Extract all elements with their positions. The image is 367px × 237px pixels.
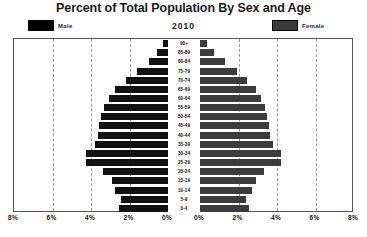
pyramid-row: 75-79 xyxy=(14,66,352,75)
bar-male xyxy=(137,68,168,75)
age-group-label: 15-19 xyxy=(168,176,200,185)
bar-male xyxy=(104,104,168,111)
legend-label-female: Female xyxy=(302,23,324,29)
age-group-label: 80-84 xyxy=(168,57,200,66)
x-axis-tick-label: 6% xyxy=(47,214,57,221)
female-bar-cell xyxy=(200,158,354,167)
bar-rows: 90+85-8980-8475-7970-7465-6960-6455-5950… xyxy=(14,39,352,211)
female-bar-cell xyxy=(200,140,354,149)
pyramid-row: 25-29 xyxy=(14,158,352,167)
bar-female xyxy=(200,196,246,203)
age-group-label: 60-64 xyxy=(168,94,200,103)
age-group-label: 20-24 xyxy=(168,167,200,176)
female-bar-cell xyxy=(200,186,354,195)
pyramid-row: 30-34 xyxy=(14,149,352,158)
male-bar-cell xyxy=(14,57,168,66)
pyramid-row: 65-69 xyxy=(14,85,352,94)
pyramid-row: 85-89 xyxy=(14,48,352,57)
male-bar-cell xyxy=(14,76,168,85)
bar-female xyxy=(200,132,270,139)
bar-male xyxy=(112,177,168,184)
male-bar-cell xyxy=(14,48,168,57)
age-group-label: 45-49 xyxy=(168,121,200,130)
bar-female xyxy=(200,58,225,65)
male-bar-cell xyxy=(14,103,168,112)
bar-female xyxy=(200,177,256,184)
pyramid-row: 40-44 xyxy=(14,131,352,140)
pyramid-row: 20-24 xyxy=(14,167,352,176)
male-bar-cell xyxy=(14,121,168,130)
x-axis-tick-label: 0% xyxy=(162,214,172,221)
female-bar-cell xyxy=(200,66,354,75)
age-group-label: 75-79 xyxy=(168,67,200,76)
female-bar-cell xyxy=(200,167,354,176)
pyramid-row: 5-9 xyxy=(14,195,352,204)
pyramid-row: 10-14 xyxy=(14,186,352,195)
legend-swatch-female xyxy=(272,20,298,31)
bar-male xyxy=(103,168,168,175)
legend-item-female: Female xyxy=(272,20,324,31)
x-axis-tick-label: 0% xyxy=(194,214,204,221)
population-pyramid-chart: Percent of Total Population By Sex and A… xyxy=(0,0,367,237)
female-bar-cell xyxy=(200,76,354,85)
age-group-label: 85-89 xyxy=(168,48,200,57)
x-axis-tick-label: 2% xyxy=(124,214,134,221)
male-bar-cell xyxy=(14,204,168,213)
age-group-label: 55-59 xyxy=(168,103,200,112)
bar-male xyxy=(115,86,168,93)
bar-male xyxy=(101,113,168,120)
age-group-label: 0-4 xyxy=(168,204,200,213)
male-bar-cell xyxy=(14,176,168,185)
x-axis: 8%6%4%2%0%0%2%4%6%8% xyxy=(0,214,367,228)
bar-male xyxy=(86,150,168,157)
female-bar-cell xyxy=(200,176,354,185)
bar-female xyxy=(200,168,264,175)
x-axis-tick-label: 2% xyxy=(233,214,243,221)
male-bar-cell xyxy=(14,85,168,94)
female-bar-cell xyxy=(200,94,354,103)
bar-female xyxy=(200,68,237,75)
age-group-label: 65-69 xyxy=(168,85,200,94)
age-group-label: 30-34 xyxy=(168,149,200,158)
bar-male xyxy=(99,122,168,129)
x-axis-tick-label: 6% xyxy=(310,214,320,221)
x-axis-tick-label: 4% xyxy=(271,214,281,221)
bar-male xyxy=(149,58,168,65)
bar-female xyxy=(200,40,207,47)
bar-male xyxy=(126,77,168,84)
chart-title: Percent of Total Population By Sex and A… xyxy=(0,1,367,15)
bar-female xyxy=(200,77,247,84)
bar-male xyxy=(109,95,168,102)
age-group-label: 10-14 xyxy=(168,186,200,195)
female-bar-cell xyxy=(200,131,354,140)
female-bar-cell xyxy=(200,112,354,121)
plot-area: 90+85-8980-8475-7970-7465-6960-6455-5950… xyxy=(13,38,353,212)
male-bar-cell xyxy=(14,195,168,204)
pyramid-row: 15-19 xyxy=(14,176,352,185)
bar-female xyxy=(200,187,252,194)
bar-male xyxy=(121,196,168,203)
bar-female xyxy=(200,113,267,120)
pyramid-row: 60-64 xyxy=(14,94,352,103)
male-bar-cell xyxy=(14,66,168,75)
male-bar-cell xyxy=(14,131,168,140)
bar-female xyxy=(200,205,249,212)
male-bar-cell xyxy=(14,39,168,48)
male-bar-cell xyxy=(14,94,168,103)
bar-female xyxy=(200,95,261,102)
bar-male xyxy=(98,132,168,139)
female-bar-cell xyxy=(200,85,354,94)
x-axis-tick-label: 8% xyxy=(8,214,18,221)
bar-female xyxy=(200,104,265,111)
male-bar-cell xyxy=(14,167,168,176)
male-bar-cell xyxy=(14,149,168,158)
female-bar-cell xyxy=(200,57,354,66)
male-bar-cell xyxy=(14,158,168,167)
pyramid-row: 90+ xyxy=(14,39,352,48)
bar-male xyxy=(157,49,168,56)
bar-female xyxy=(200,159,281,166)
female-bar-cell xyxy=(200,195,354,204)
male-bar-cell xyxy=(14,186,168,195)
bar-male xyxy=(115,187,168,194)
pyramid-row: 50-54 xyxy=(14,112,352,121)
